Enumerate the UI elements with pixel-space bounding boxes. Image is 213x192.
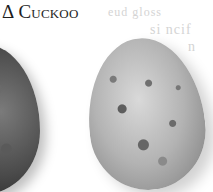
bleed-through-text: si ncif [150,22,192,38]
page-heading: ΔCuckoo [2,1,79,23]
bleed-through-text: n [188,39,196,55]
dark-egg-image [0,44,40,192]
delta-icon: Δ [2,1,14,22]
speckled-egg-image [80,32,211,192]
heading-title: Cuckoo [18,1,78,22]
bleed-through-text: eud gloss [108,5,162,20]
